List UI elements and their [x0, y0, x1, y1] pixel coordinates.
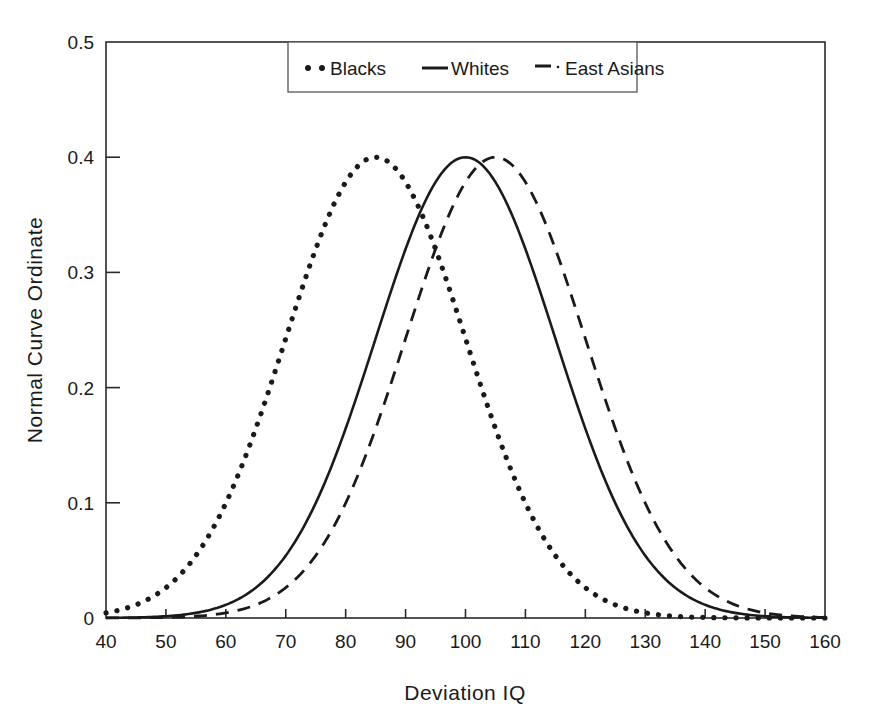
x-tick-label: 90 [395, 631, 416, 652]
x-tick-label: 140 [689, 631, 721, 652]
x-tick-label: 100 [450, 631, 482, 652]
y-tick-label: 0 [83, 608, 94, 629]
x-tick-label: 80 [335, 631, 356, 652]
x-tick-label: 70 [275, 631, 296, 652]
y-axis-title: Normal Curve Ordinate [23, 217, 46, 443]
x-tick-label: 60 [215, 631, 236, 652]
legend-label-blacks: Blacks [330, 58, 386, 79]
x-tick-label: 130 [629, 631, 661, 652]
x-tick-label: 110 [510, 631, 540, 652]
chart-legend: Blacks Whites East Asians [288, 42, 664, 92]
x-tick-label: 160 [809, 631, 841, 652]
legend-label-whites: Whites [451, 58, 509, 79]
y-tick-label: 0.3 [68, 262, 94, 283]
y-tick-label: 0.4 [68, 147, 95, 168]
y-tick-label: 0.5 [68, 32, 94, 53]
x-axis-title: Deviation IQ [404, 681, 526, 704]
legend-label-east-asians: East Asians [565, 58, 664, 79]
x-tick-label: 120 [569, 631, 601, 652]
y-tick-label: 0.1 [68, 493, 94, 514]
x-tick-label: 150 [749, 631, 781, 652]
chart-figure: 00.10.20.30.40.5 40506070809010011012013… [0, 0, 882, 727]
y-tick-label: 0.2 [68, 378, 94, 399]
iq-distribution-chart: 00.10.20.30.40.5 40506070809010011012013… [0, 0, 882, 727]
x-tick-label: 50 [155, 631, 176, 652]
x-tick-label: 40 [95, 631, 116, 652]
